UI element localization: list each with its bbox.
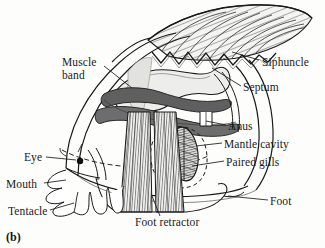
label-eye: Eye	[24, 151, 42, 164]
shell-chambers	[148, 5, 312, 61]
label-muscle-band-line2: band	[62, 69, 85, 81]
label-siphuncle: Siphuncle	[262, 56, 309, 69]
label-muscle-band-line1: Muscle	[62, 56, 96, 68]
eye	[77, 158, 83, 164]
label-mantle-cavity: Mantle cavity	[224, 138, 289, 151]
anus-tube	[200, 112, 212, 126]
label-muscle-band: Muscleband	[62, 56, 96, 82]
nautilus-diagram	[0, 0, 325, 248]
panel-label: (b)	[6, 230, 21, 245]
label-foot-retractor: Foot retractor	[135, 216, 199, 229]
label-mouth: Mouth	[6, 178, 37, 191]
label-paired-gills: Paired gills	[226, 156, 279, 169]
label-septum: Septum	[243, 81, 279, 94]
label-tentacle: Tentacle	[8, 205, 48, 218]
label-foot: Foot	[270, 195, 292, 208]
figure-panel-b: Muscleband Siphuncle Septum Anus Mantle …	[0, 0, 325, 248]
label-anus: Anus	[228, 120, 253, 133]
